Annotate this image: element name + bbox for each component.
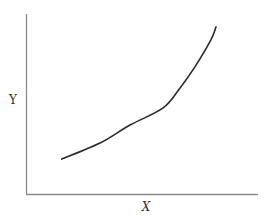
chart-canvas: Y X [0,0,273,219]
x-axis-label: X [141,200,151,214]
y-axis-label: Y [8,93,18,107]
data-curve [62,27,216,159]
